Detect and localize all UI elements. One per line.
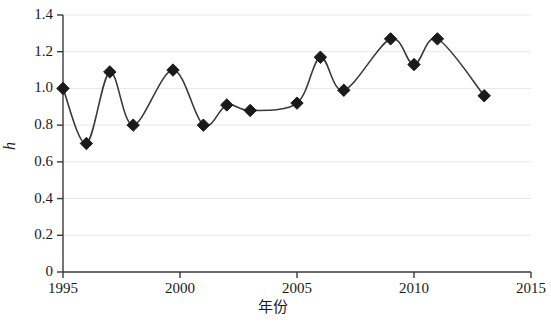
y-tick-label: 1.4 bbox=[19, 7, 53, 22]
data-point-markers bbox=[57, 33, 491, 150]
x-tick-label: 2015 bbox=[501, 281, 551, 296]
y-tick-label: 1.0 bbox=[19, 80, 53, 95]
y-tick-label: 0.6 bbox=[19, 154, 53, 169]
x-tick-label: 2010 bbox=[384, 281, 444, 296]
y-tick-label: 1.2 bbox=[19, 44, 53, 59]
data-point-marker bbox=[57, 82, 69, 94]
data-point-marker bbox=[80, 137, 92, 149]
data-point-marker bbox=[167, 64, 179, 76]
data-point-marker bbox=[197, 119, 209, 131]
y-axis-ticks bbox=[57, 15, 63, 272]
axis-lines bbox=[63, 15, 531, 272]
y-axis-title: h bbox=[2, 142, 18, 150]
x-axis-title: 年份 bbox=[218, 300, 328, 315]
y-tick-label: 0 bbox=[19, 264, 53, 279]
data-point-marker bbox=[384, 33, 396, 45]
y-tick-label: 0.8 bbox=[19, 117, 53, 132]
y-tick-label: 0.4 bbox=[19, 191, 53, 206]
data-point-marker bbox=[431, 33, 443, 45]
data-point-marker bbox=[478, 90, 490, 102]
x-tick-label: 2000 bbox=[150, 281, 210, 296]
data-point-marker bbox=[338, 84, 350, 96]
data-point-marker bbox=[244, 104, 256, 116]
y-tick-label: 0.2 bbox=[19, 227, 53, 242]
data-series-line bbox=[63, 38, 484, 143]
x-tick-label: 1995 bbox=[33, 281, 93, 296]
x-axis-ticks bbox=[63, 272, 531, 278]
x-tick-label: 2005 bbox=[267, 281, 327, 296]
